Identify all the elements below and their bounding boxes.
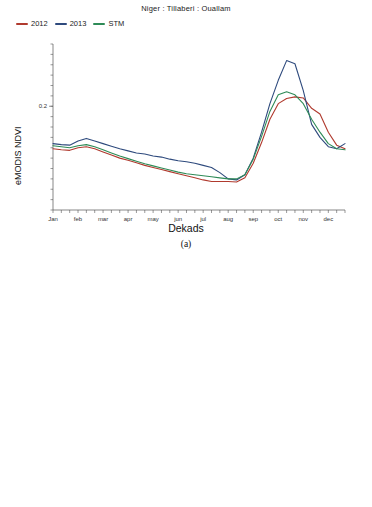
- panel-a: Niger : Tillaberi : Ouallam 2012 2013 ST…: [0, 0, 372, 253]
- chart-svg-a: 0.2Janfebmaraprmayjunjulaugsepoctnovdec: [53, 44, 345, 210]
- y-axis-title-a: eMODIS NDVI: [13, 126, 23, 185]
- legend-label-2013: 2013: [70, 20, 87, 28]
- legend-label-stm: STM: [108, 20, 124, 28]
- legend-item-2013: 2013: [55, 20, 87, 28]
- panel-b: 2012 2013 eMODIS NDVI anomaly 0.040.030.…: [0, 253, 372, 507]
- legend-swatch-2013: [55, 23, 67, 25]
- legend-label-2012: 2012: [31, 20, 48, 28]
- figure-container: Niger : Tillaberi : Ouallam 2012 2013 ST…: [0, 0, 372, 507]
- legend-swatch-2012: [16, 23, 28, 25]
- svg-text:0.2: 0.2: [39, 103, 48, 109]
- legend-swatch-stm: [93, 23, 105, 25]
- plot-area-a: 0.2Janfebmaraprmayjunjulaugsepoctnovdec: [53, 44, 345, 210]
- legend-item-2012: 2012: [16, 20, 48, 28]
- chart-title: Niger : Tillaberi : Ouallam: [0, 4, 372, 13]
- legend-item-stm: STM: [93, 20, 124, 28]
- x-axis-title-a: Dekads: [0, 222, 372, 234]
- legend-a: 2012 2013 STM: [16, 20, 124, 28]
- subplot-label-a: (a): [0, 239, 372, 249]
